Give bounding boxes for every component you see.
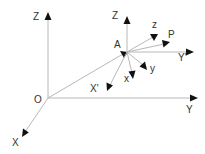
rotated-y-label: y xyxy=(150,63,155,74)
origin-label: O xyxy=(34,94,42,105)
p-arrowhead-icon xyxy=(162,40,170,48)
global-x-arrowhead-icon xyxy=(22,129,29,138)
global-y-axis xyxy=(48,95,198,102)
rotated-z-axis xyxy=(127,34,158,52)
global-y-arrowhead-icon xyxy=(190,95,198,102)
local-z-label: Z xyxy=(112,10,118,21)
p-vector xyxy=(127,40,170,52)
global-y-label: Y xyxy=(186,104,193,115)
local-y-label: Y' xyxy=(178,52,187,63)
local-z-arrowhead-icon xyxy=(124,16,131,24)
point-a-label: A xyxy=(114,39,121,50)
p-label: P xyxy=(168,29,175,40)
vector-oa xyxy=(48,51,128,98)
global-x-label: X xyxy=(12,137,19,148)
rotated-y-axis xyxy=(127,52,147,70)
local-x-arrowhead-icon xyxy=(107,83,114,92)
global-z-arrowhead-icon xyxy=(45,12,52,20)
local-z-parallel-axis xyxy=(124,16,131,52)
rotated-x-label: x xyxy=(124,73,129,84)
global-z-label: Z xyxy=(33,11,39,22)
rotated-z-label: z xyxy=(152,19,157,30)
global-z-axis xyxy=(45,12,52,98)
coordinate-frame-diagram: Z O Y X A Z z P Y' y x X' xyxy=(0,0,205,154)
rotated-x-arrowhead-icon xyxy=(129,71,136,80)
local-y-arrowhead-icon xyxy=(186,49,194,56)
local-x-label: X' xyxy=(90,83,99,94)
